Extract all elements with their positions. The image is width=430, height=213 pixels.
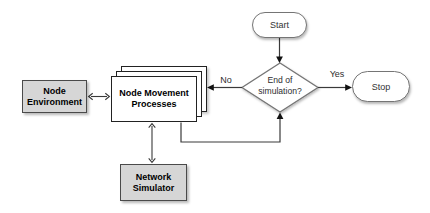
no-edge-label: No [215, 75, 237, 85]
feedback-arrowhead [277, 113, 284, 120]
decision-label-line2: simulation? [242, 86, 318, 97]
decision-label-line1: End of [242, 75, 318, 86]
node-movement-processes-label-line2: Processes [131, 99, 176, 110]
network-simulator-box: Network Simulator [120, 164, 187, 201]
decision-label: End of simulation? [242, 75, 318, 97]
node-environment-label-line2: Environment [27, 97, 82, 108]
yes-edge-label: Yes [325, 69, 349, 79]
start-node: Start [252, 12, 307, 38]
node-movement-processes-box: Node Movement Processes [111, 76, 197, 122]
yes-arrowhead [345, 84, 352, 91]
stop-label: Stop [372, 82, 391, 92]
node-movement-processes-label-line1: Node Movement [119, 88, 189, 99]
no-arrowhead [207, 84, 214, 91]
flowchart-diagram: Node Environment Node Movement Processes… [0, 0, 430, 213]
start-label: Start [270, 20, 289, 30]
network-simulator-label-line2: Simulator [133, 183, 175, 194]
node-environment-box: Node Environment [22, 80, 87, 113]
node-environment-label-line1: Node [43, 86, 66, 97]
stop-node: Stop [352, 71, 410, 102]
start-to-decision-arrowhead [276, 57, 283, 64]
network-simulator-label-line1: Network [136, 172, 172, 183]
